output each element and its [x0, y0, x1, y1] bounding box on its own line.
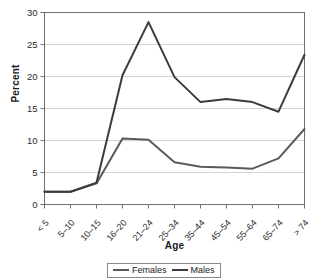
legend-item-males: Males: [172, 265, 215, 275]
y-tick-label: 20: [12, 71, 38, 82]
series-line-females: [45, 129, 305, 192]
x-axis-ticks: [45, 205, 305, 209]
y-tick-label: 25: [12, 39, 38, 50]
legend-swatch-males: [172, 269, 188, 271]
series-line-males: [45, 22, 305, 192]
chart-legend: Females Males: [107, 263, 221, 278]
y-tick-label: 30: [12, 7, 38, 18]
legend-item-females: Females: [113, 265, 167, 275]
legend-label-males: Males: [191, 265, 215, 275]
y-axis-ticks: [41, 13, 45, 205]
gridlines: [45, 45, 305, 173]
legend-label-females: Females: [132, 265, 167, 275]
y-tick-label: 0: [12, 199, 38, 210]
chart-figure: Percent Age 051015202530 < 55–1010–1516–…: [0, 0, 317, 278]
legend-swatch-females: [113, 269, 129, 271]
y-tick-label: 5: [12, 167, 38, 178]
data-series-lines: [45, 22, 305, 192]
y-tick-label: 15: [12, 103, 38, 114]
y-tick-label: 10: [12, 135, 38, 146]
